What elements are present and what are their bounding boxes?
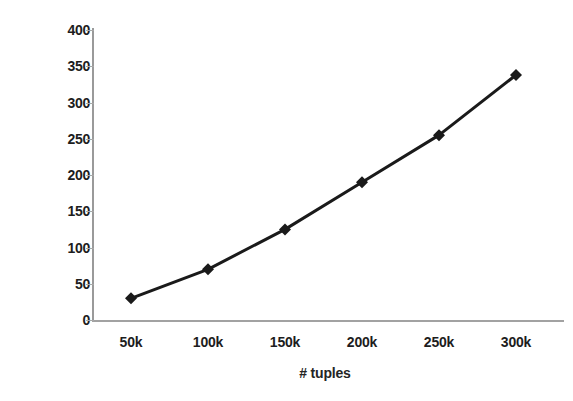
y-tick-label: 50 <box>44 276 90 292</box>
y-tick-label: 400 <box>44 22 90 38</box>
x-tick-label: 250k <box>399 334 479 350</box>
y-tick-mark <box>86 139 94 140</box>
y-tick-mark <box>86 211 94 212</box>
plot-area <box>92 30 564 320</box>
y-tick-mark <box>86 175 94 176</box>
y-axis-tick-labels: 050100150200250300350400 <box>44 22 90 328</box>
y-tick-label: 250 <box>44 131 90 147</box>
x-axis-line <box>92 320 564 322</box>
y-tick-mark <box>86 30 94 31</box>
x-tick-label: 200k <box>322 334 402 350</box>
x-tick-label: 150k <box>245 334 325 350</box>
y-tick-mark <box>86 103 94 104</box>
y-tick-label: 0 <box>44 312 90 328</box>
x-tick-label: 100k <box>168 334 248 350</box>
y-tick-mark <box>86 320 94 321</box>
x-tick-label: 50k <box>91 334 171 350</box>
y-tick-label: 100 <box>44 240 90 256</box>
y-tick-label: 150 <box>44 203 90 219</box>
y-tick-mark <box>86 66 94 67</box>
y-tick-label: 300 <box>44 95 90 111</box>
y-tick-label: 200 <box>44 167 90 183</box>
x-axis-title: # tuples <box>245 365 405 381</box>
x-tick-label: 300k <box>476 334 556 350</box>
y-tick-mark <box>86 284 94 285</box>
y-tick-label: 350 <box>44 58 90 74</box>
chart-figure: Running time (mins) 05010015020025030035… <box>0 0 573 401</box>
y-tick-mark <box>86 248 94 249</box>
